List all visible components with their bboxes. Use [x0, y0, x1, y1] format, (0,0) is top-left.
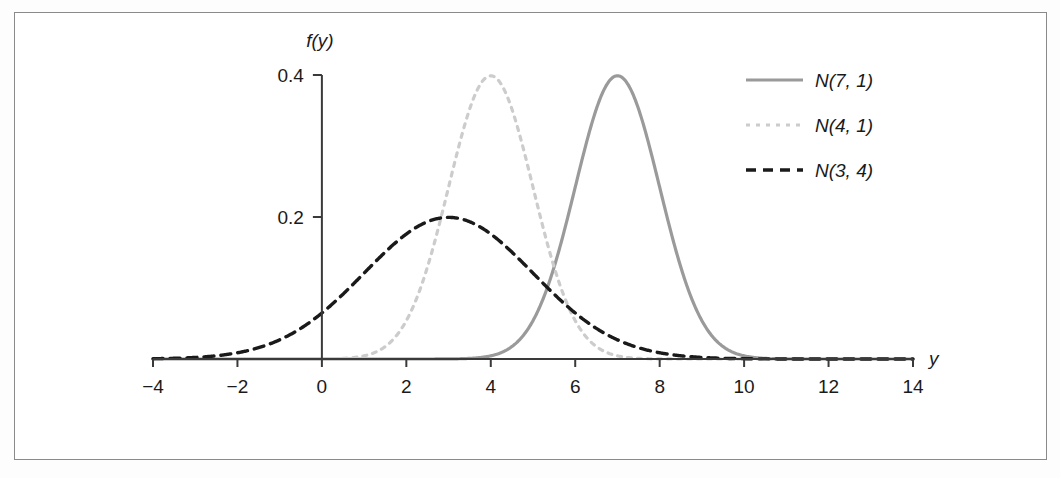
y-tick-label: 0.4	[277, 65, 304, 86]
x-axis-title: y	[927, 348, 940, 369]
x-tick-label: −2	[227, 376, 249, 397]
x-tick-label: 4	[485, 376, 496, 397]
chart-legend: N(7, 1)N(4, 1)N(3, 4)	[746, 70, 873, 181]
legend-label: N(7, 1)	[815, 70, 873, 91]
figure-root: −4−202468101214 0.20.4 f(y) y N(7, 1)N(4…	[0, 0, 1060, 478]
curves-group	[153, 76, 913, 359]
curve-n-3-4	[153, 217, 913, 359]
x-tick-label: 14	[902, 376, 924, 397]
legend-label: N(4, 1)	[815, 115, 873, 136]
curve-n-7-1	[153, 76, 913, 359]
x-tick-label: −4	[142, 376, 164, 397]
x-tick-label: 12	[818, 376, 839, 397]
x-tick-label: 0	[317, 376, 328, 397]
x-axis-tick-labels: −4−202468101214	[142, 376, 924, 397]
legend-label: N(3, 4)	[815, 160, 873, 181]
x-tick-label: 2	[401, 376, 412, 397]
curve-n-4-1	[153, 76, 913, 359]
y-tick-label: 0.2	[277, 207, 303, 228]
y-axis-title: f(y)	[306, 30, 333, 51]
x-tick-label: 6	[570, 376, 581, 397]
figure-border: −4−202468101214 0.20.4 f(y) y N(7, 1)N(4…	[14, 12, 1047, 460]
normal-distribution-chart: −4−202468101214 0.20.4 f(y) y N(7, 1)N(4…	[15, 13, 1048, 461]
y-axis-tick-labels: 0.20.4	[277, 65, 304, 228]
x-tick-label: 10	[734, 376, 755, 397]
x-tick-label: 8	[654, 376, 665, 397]
